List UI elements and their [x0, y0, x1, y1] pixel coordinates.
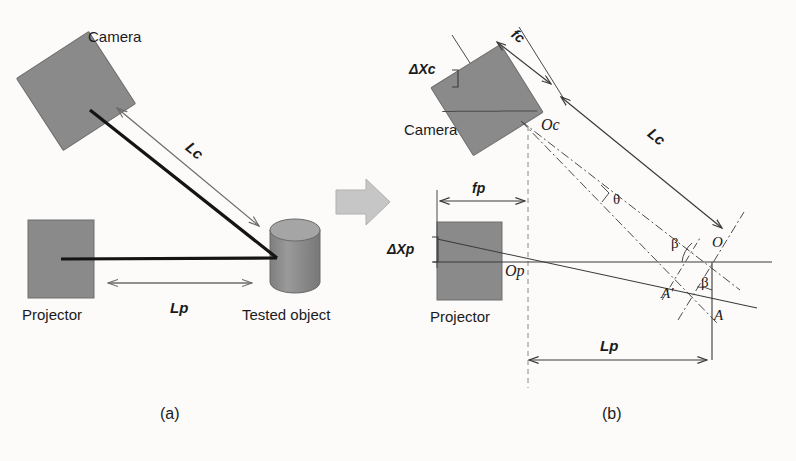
projector-box-icon-b [437, 222, 502, 300]
camera-back-plane-line [452, 35, 470, 63]
oc-point-label: Oc [541, 116, 560, 134]
lp-label-b: Lp [600, 337, 618, 354]
caption-b: (b) [602, 405, 622, 423]
lc-dimension-arrow-a [117, 108, 259, 226]
camera-box-icon-b [431, 44, 543, 155]
projector-beam-line-a [61, 258, 277, 259]
panel-a-graphics [17, 32, 320, 298]
point-a-label: A [714, 307, 723, 324]
caption-a: (a) [160, 405, 180, 423]
lp-label-a: Lp [170, 299, 188, 316]
beta-upper-angle-label: β [671, 235, 679, 252]
cylinder-object-icon-a [270, 219, 320, 293]
figure-container: Camera Projector Tested object Lc Lp (a)… [0, 0, 796, 461]
panel-b-graphics [431, 27, 772, 388]
diagram-canvas [0, 0, 796, 461]
beta-lower-angle-label: β [701, 274, 709, 291]
surface-normal-dashdot-line [678, 212, 744, 320]
op-point-label: Op [505, 262, 525, 280]
tested-object-label-a: Tested object [242, 306, 330, 323]
projector-label-a: Projector [22, 306, 82, 323]
theta-angle-label: θ [613, 191, 620, 208]
point-o-label: O [712, 234, 723, 251]
fp-label: fp [472, 180, 485, 196]
right-arrow-icon [336, 179, 390, 225]
delta-xc-label: ΔXc [409, 61, 436, 77]
delta-xp-label: ΔXp [387, 241, 414, 257]
camera-label-a: Camera [88, 28, 141, 45]
camera-sight-line-a [90, 110, 277, 258]
projector-label-b: Projector [430, 308, 490, 325]
point-a-prime-label: A′ [661, 285, 673, 302]
camera-label-b: Camera [404, 121, 457, 138]
lc-dimension-arrow-b [561, 97, 722, 228]
